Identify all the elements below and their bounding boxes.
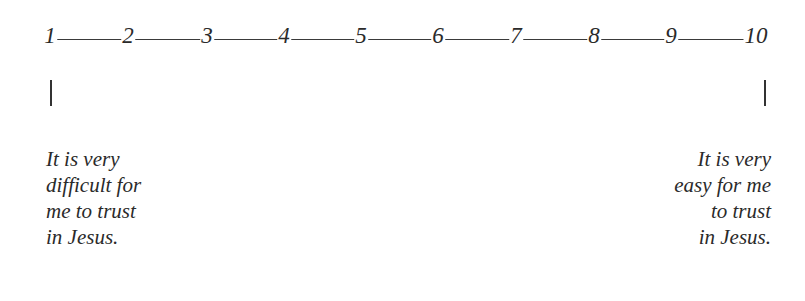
- right-anchor-line: in Jesus.: [674, 224, 771, 250]
- scale-number-3[interactable]: 3: [200, 22, 214, 50]
- left-anchor-line: difficult for: [46, 172, 141, 198]
- scale-line: [56, 39, 744, 40]
- left-anchor-line: in Jesus.: [46, 224, 141, 250]
- left-anchor-label: It is very difficult for me to trust in …: [46, 146, 141, 250]
- scale-number-6[interactable]: 6: [431, 22, 445, 50]
- scale-number-10[interactable]: 10: [744, 22, 769, 50]
- scale-number-4[interactable]: 4: [277, 22, 291, 50]
- left-anchor-line: me to trust: [46, 198, 141, 224]
- right-anchor-line: to trust: [674, 198, 771, 224]
- scale-number-1[interactable]: 1: [43, 22, 57, 50]
- right-anchor-line: easy for me: [674, 172, 771, 198]
- right-anchor-line: It is very: [674, 146, 771, 172]
- right-anchor-label: It is very easy for me to trust in Jesus…: [674, 146, 771, 250]
- rating-scale: 1 2 3 4 5 6 7 8 9 10: [0, 22, 805, 52]
- right-anchor-tick: [764, 80, 766, 106]
- scale-number-9[interactable]: 9: [664, 22, 678, 50]
- scale-number-2[interactable]: 2: [121, 22, 135, 50]
- left-anchor-line: It is very: [46, 146, 141, 172]
- scale-number-8[interactable]: 8: [587, 22, 601, 50]
- scale-number-5[interactable]: 5: [354, 22, 368, 50]
- left-anchor-tick: [50, 80, 52, 106]
- scale-number-7[interactable]: 7: [509, 22, 523, 50]
